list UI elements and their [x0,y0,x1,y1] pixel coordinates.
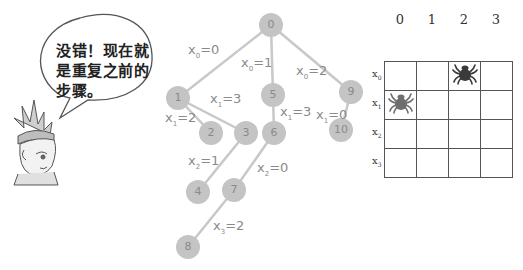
board-cell [449,91,481,120]
spider-icon [452,70,478,89]
tree-node-4: 4 [186,180,210,204]
row-label-x2: x2 [372,126,381,139]
board-cell [417,62,449,91]
edge-label-5-6: x1=3 [280,104,311,122]
board-cell [417,91,449,120]
tree-node-3: 3 [234,121,258,145]
board-cell [385,120,417,149]
column-label-3: 3 [480,12,512,27]
board-cell [385,91,417,120]
board-cell [449,149,481,178]
edge-label-1-2: x1=2 [165,110,196,128]
edge-label-1-3: x1=3 [210,91,241,109]
column-label-0: 0 [384,12,416,27]
board-cell [449,62,481,91]
row-label-x1: x1 [372,97,381,110]
tree-node-2: 2 [199,121,223,145]
tree-node-1: 1 [166,86,190,110]
board-row [385,91,513,120]
edge-label-0-1: x0=0 [188,42,219,60]
spider-icon [388,99,414,118]
chess-board-grid [384,61,513,178]
board-cell [481,62,513,91]
edge-label-3-4: x2=1 [188,153,219,171]
row-label-x0: x0 [372,68,381,81]
board-cell [417,149,449,178]
column-label-1: 1 [416,12,448,27]
board-cell [417,120,449,149]
board-cell [385,62,417,91]
board-cell [449,120,481,149]
edge-label-0-5: x0=1 [241,55,272,73]
board-row [385,149,513,178]
board-cell [481,91,513,120]
column-label-2: 2 [448,12,480,27]
board-row [385,62,513,91]
board-cell [481,120,513,149]
tree-node-9: 9 [339,80,363,104]
edge-label-9-10: x1=0 [316,107,347,125]
tree-node-7: 7 [222,178,246,202]
edge-label-6-7: x2=0 [257,160,288,178]
tree-node-8: 8 [176,235,200,259]
row-label-x3: x3 [372,155,381,168]
board-cell [481,149,513,178]
tree-node-6: 6 [262,121,286,145]
tree-node-0: 0 [259,13,283,37]
edge-label-7-8: x3=2 [213,218,244,236]
board-row [385,120,513,149]
edge-label-0-9: x0=2 [296,63,327,81]
board-cell [385,149,417,178]
